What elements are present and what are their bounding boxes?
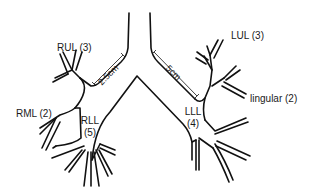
right-upper-lobe-branches — [53, 50, 100, 108]
label-rll: RLL (5) — [80, 115, 100, 138]
label-rul: RUL (3) — [57, 42, 92, 53]
label-rll-count: (5) — [80, 127, 100, 138]
label-lll-name: LLL — [182, 106, 204, 117]
right-lower-lobe-branches — [52, 144, 115, 186]
label-lingular: lingular (2) — [250, 93, 297, 104]
label-rml: RML (2) — [16, 108, 52, 119]
label-lll: LLL (4) — [182, 106, 204, 129]
label-lul: LUL (3) — [231, 30, 264, 41]
label-lll-count: (4) — [182, 118, 204, 129]
label-rll-name: RLL — [80, 115, 100, 126]
